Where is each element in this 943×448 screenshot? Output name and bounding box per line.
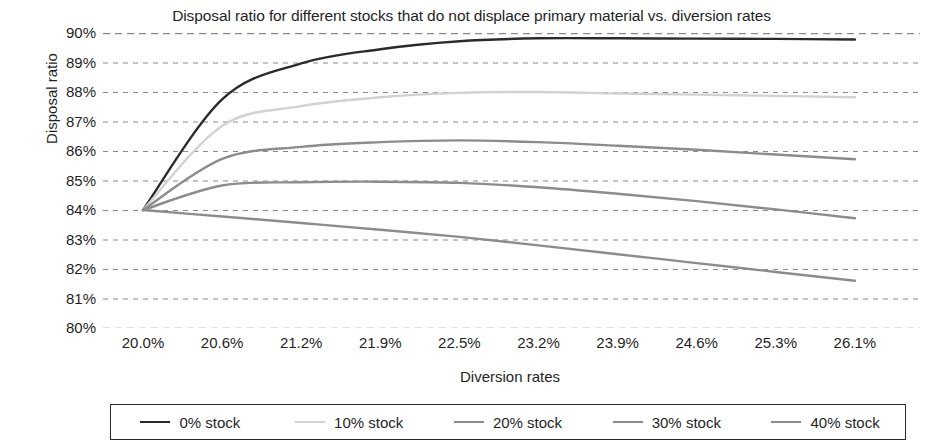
y-tick-label: 81%: [0, 291, 96, 306]
y-tick-label: 84%: [0, 202, 96, 217]
legend-line-icon: [613, 421, 643, 423]
x-tick-label: 23.9%: [578, 334, 658, 351]
series-line: [143, 182, 855, 219]
x-tick-label: 25.3%: [736, 334, 816, 351]
chart-title: Disposal ratio for different stocks that…: [0, 7, 943, 25]
legend-item-label: 40% stock: [810, 414, 879, 431]
legend-item[interactable]: 10% stock: [270, 414, 429, 431]
x-axis-title: Diversion rates: [110, 368, 910, 385]
legend-item[interactable]: 20% stock: [429, 414, 588, 431]
x-tick-label: 22.5%: [419, 334, 499, 351]
chart-plot-svg: [103, 33, 920, 328]
plot-area: [103, 33, 920, 328]
x-tick-label: 20.6%: [182, 334, 262, 351]
x-axis-tick-labels: 20.0%20.6%21.2%21.9%22.5%23.2%23.9%24.6%…: [103, 334, 920, 358]
legend-line-icon: [454, 421, 484, 423]
y-tick-label: 86%: [0, 143, 96, 158]
y-tick-label: 85%: [0, 173, 96, 188]
x-tick-label: 24.6%: [657, 334, 737, 351]
x-tick-label: 20.0%: [103, 334, 183, 351]
y-tick-label: 82%: [0, 261, 96, 276]
legend-line-icon: [295, 421, 325, 423]
legend-item[interactable]: 40% stock: [746, 414, 905, 431]
legend-line-icon: [140, 421, 170, 423]
legend-item-label: 30% stock: [652, 414, 721, 431]
y-tick-label: 90%: [0, 25, 96, 40]
x-tick-label: 26.1%: [815, 334, 895, 351]
legend-item[interactable]: 0% stock: [111, 414, 270, 431]
legend-item-label: 10% stock: [334, 414, 403, 431]
series-line: [143, 210, 855, 281]
legend-line-icon: [771, 421, 801, 423]
y-tick-label: 89%: [0, 55, 96, 70]
chart-container: Disposal ratio for different stocks that…: [0, 0, 943, 448]
y-axis-tick-labels: 90%89%88%87%86%85%84%83%82%81%80%: [0, 33, 96, 328]
legend-item-label: 0% stock: [179, 414, 240, 431]
x-tick-label: 21.9%: [340, 334, 420, 351]
legend-item[interactable]: 30% stock: [587, 414, 746, 431]
chart-legend: 0% stock10% stock20% stock30% stock40% s…: [110, 404, 906, 440]
series-line: [143, 140, 855, 210]
y-tick-label: 87%: [0, 114, 96, 129]
y-tick-label: 83%: [0, 232, 96, 247]
y-tick-label: 88%: [0, 84, 96, 99]
x-tick-label: 23.2%: [499, 334, 579, 351]
x-tick-label: 21.2%: [261, 334, 341, 351]
legend-item-label: 20% stock: [493, 414, 562, 431]
y-tick-label: 80%: [0, 320, 96, 335]
